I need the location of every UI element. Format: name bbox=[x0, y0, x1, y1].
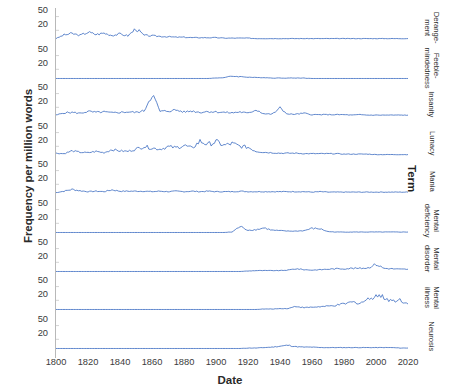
y-tick-label-50: 50 bbox=[18, 82, 48, 92]
panel-mental-illness: 5020Mentalillness bbox=[0, 278, 456, 317]
x-tick-label: 1860 bbox=[142, 357, 163, 367]
facet-strip-text: Derange-ment bbox=[422, 9, 439, 45]
plot-area bbox=[56, 240, 408, 279]
series-line bbox=[56, 76, 408, 78]
facet-strip-text: Mentalillness bbox=[422, 279, 439, 315]
y-tick-label-50: 50 bbox=[18, 5, 48, 15]
panel-lunacy: 5020Lunacy bbox=[0, 124, 456, 163]
facet-strip-label: Feeble-mindedness bbox=[412, 47, 450, 86]
legend-title: Term bbox=[406, 165, 418, 192]
facet-strip-text: Insanity bbox=[427, 91, 436, 117]
y-tick-label-20: 20 bbox=[18, 328, 48, 338]
facet-strip-text: Neurosis bbox=[427, 321, 436, 351]
y-tick-label-50: 50 bbox=[18, 121, 48, 131]
series-line bbox=[56, 263, 408, 271]
plot-area bbox=[56, 8, 408, 47]
facet-strip-text: Mentaldisorder bbox=[422, 241, 439, 277]
y-tick-label-20: 20 bbox=[18, 289, 48, 299]
x-tick-label: 1840 bbox=[110, 357, 131, 367]
plot-area bbox=[56, 317, 408, 356]
y-tick-label-50: 50 bbox=[18, 44, 48, 54]
panel-mania: 5020Mania bbox=[0, 162, 456, 201]
x-tick-label: 1980 bbox=[334, 357, 355, 367]
facet-strip-label: Mentaldisorder bbox=[412, 240, 450, 279]
facet-strip-text: Mania bbox=[427, 171, 436, 192]
plot-area bbox=[56, 278, 408, 317]
facet-strip-label: Lunacy bbox=[412, 124, 450, 163]
panel-derangement: 5020Derange-ment bbox=[0, 8, 456, 47]
x-tick-label: 1800 bbox=[46, 357, 67, 367]
facet-strip-text: Lunacy bbox=[427, 131, 436, 156]
x-tick-label: 1960 bbox=[302, 357, 323, 367]
facet-strip-label: Mentalillness bbox=[412, 278, 450, 317]
y-tick-label-20: 20 bbox=[18, 58, 48, 68]
facet-strip-text: Feeble-mindedness bbox=[422, 48, 439, 84]
series-line bbox=[56, 345, 408, 348]
panel-feeble-mindedness: 5020Feeble-mindedness bbox=[0, 47, 456, 86]
panel-mental-disorder: 5020Mentaldisorder bbox=[0, 240, 456, 279]
x-axis-tick-labels: 1800182018401860188019001920194019601980… bbox=[0, 357, 456, 373]
x-tick-label: 1820 bbox=[78, 357, 99, 367]
plot-area bbox=[56, 124, 408, 163]
plot-area bbox=[56, 47, 408, 86]
x-tick-label: 1920 bbox=[238, 357, 259, 367]
panel-insanity: 5020Insanity bbox=[0, 85, 456, 124]
y-tick-label-20: 20 bbox=[18, 19, 48, 29]
x-tick-label: 1940 bbox=[270, 357, 291, 367]
facet-strip-text: Mentaldeficiency bbox=[422, 202, 439, 238]
panel-mental-deficiency: 5020Mentaldeficiency bbox=[0, 201, 456, 240]
series-line bbox=[56, 189, 408, 193]
panel-stack: 5020Derange-ment5020Feeble-mindedness502… bbox=[0, 8, 456, 355]
y-tick-label-50: 50 bbox=[18, 198, 48, 208]
facet-strip-label: Derange-ment bbox=[412, 8, 450, 47]
x-tick-label: 2000 bbox=[366, 357, 387, 367]
y-tick-label-50: 50 bbox=[18, 314, 48, 324]
y-tick-label-50: 50 bbox=[18, 237, 48, 247]
x-tick-label: 1880 bbox=[174, 357, 195, 367]
plot-area bbox=[56, 201, 408, 240]
y-tick-label-20: 20 bbox=[18, 96, 48, 106]
plot-area bbox=[56, 85, 408, 124]
facet-strip-label: Mentaldeficiency bbox=[412, 201, 450, 240]
x-axis-title: Date bbox=[60, 374, 400, 386]
y-tick-label-20: 20 bbox=[18, 135, 48, 145]
y-tick-label-20: 20 bbox=[18, 212, 48, 222]
series-line bbox=[56, 29, 408, 39]
x-tick-label: 1900 bbox=[206, 357, 227, 367]
series-line bbox=[56, 139, 408, 154]
y-tick-label-50: 50 bbox=[18, 275, 48, 285]
facet-strip-label: Insanity bbox=[412, 85, 450, 124]
y-tick-label-20: 20 bbox=[18, 173, 48, 183]
series-line bbox=[56, 295, 408, 310]
panel-neurosis: 5020Neurosis bbox=[0, 317, 456, 356]
plot-area bbox=[56, 162, 408, 201]
series-line bbox=[56, 96, 408, 116]
y-tick-label-20: 20 bbox=[18, 251, 48, 261]
series-line bbox=[56, 226, 408, 232]
x-tick-label: 2020 bbox=[398, 357, 419, 367]
frequency-facet-chart: Frequency per million words 5020Derange-… bbox=[0, 0, 456, 392]
y-tick-label-50: 50 bbox=[18, 159, 48, 169]
facet-strip-label: Neurosis bbox=[412, 317, 450, 356]
